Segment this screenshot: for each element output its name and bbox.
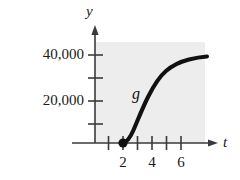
y-tick-label-20000: 20,000 bbox=[0, 93, 84, 108]
x-axis-label: t bbox=[223, 135, 227, 150]
x-tick-label-6: 6 bbox=[170, 155, 192, 170]
graph-figure: y t g 40,000 20,000 2 4 6 bbox=[0, 0, 240, 180]
curve-label-g: g bbox=[132, 86, 140, 102]
endpoint-marker-dot bbox=[118, 138, 127, 147]
plot-canvas bbox=[0, 0, 240, 180]
x-tick-label-2: 2 bbox=[112, 155, 134, 170]
y-axis-label: y bbox=[86, 4, 93, 19]
x-tick-label-4: 4 bbox=[141, 155, 163, 170]
y-tick-label-40000: 40,000 bbox=[0, 47, 84, 62]
